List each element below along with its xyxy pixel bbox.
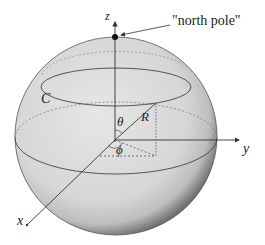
sphere-diagram: [0, 0, 265, 245]
north-pole-pointer: [121, 25, 170, 35]
radius-label: R: [141, 110, 149, 123]
y-axis-label: y: [243, 142, 249, 156]
theta-label: θ: [117, 115, 123, 128]
north-pole-dot: [112, 34, 118, 40]
north-pole-label: "north pole": [172, 14, 241, 28]
phi-label: ϕ: [116, 143, 123, 156]
z-axis-label: z: [105, 10, 110, 22]
x-axis-tip: [26, 224, 28, 226]
circle-c-label: C: [41, 92, 50, 106]
x-axis-label: x: [17, 214, 23, 228]
